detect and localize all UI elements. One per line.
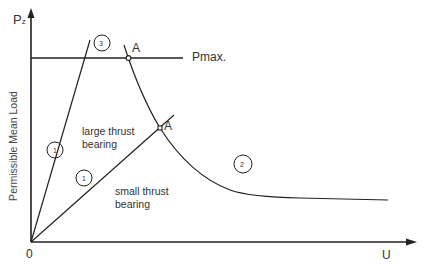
pmax-label: Pmax. <box>192 51 226 64</box>
marker-3-label: 3 <box>99 37 103 50</box>
point-a-lower-label: A <box>164 120 172 133</box>
marker-2-label: 2 <box>240 158 244 171</box>
small-thrust-region-label: small thrust bearing <box>115 185 169 211</box>
diagram-canvas <box>0 0 427 270</box>
y-axis-symbol: Pz <box>13 13 26 28</box>
y-axis-arrow-icon <box>28 8 35 18</box>
point-a-upper <box>126 56 131 61</box>
marker-1-upper-label: 1 <box>53 144 57 157</box>
y-axis-label: Permissible Mean Load <box>7 91 19 201</box>
x-axis-arrow-icon <box>406 239 417 246</box>
large-thrust-region-label: large thrust bearing <box>82 125 135 151</box>
point-a-upper-label: A <box>132 42 140 55</box>
marker-1-lower-label: 1 <box>82 172 86 185</box>
origin-label: 0 <box>26 248 33 261</box>
point-a-lower <box>158 126 162 130</box>
x-axis-label: U <box>382 249 391 262</box>
